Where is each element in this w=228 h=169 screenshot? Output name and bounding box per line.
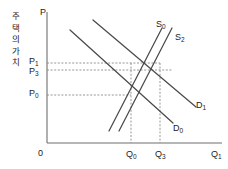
- x-tick-label-q3: Q3: [155, 150, 166, 159]
- chart-plot-area: [0, 0, 228, 169]
- x-tick-label-q1: Q1: [211, 150, 222, 159]
- curve-label-s2: S2: [175, 33, 185, 42]
- x-tick-label-q0: Q0: [126, 150, 137, 159]
- y-tick-label-p3: P3: [29, 67, 39, 76]
- axes: [47, 12, 222, 143]
- origin-label: 0: [38, 149, 43, 158]
- curve-label-d1: D1: [196, 101, 206, 110]
- supply-curve-s0: [109, 28, 162, 131]
- y-tick-label-p0: P0: [29, 89, 39, 98]
- y-tick-label-p1: P1: [29, 57, 39, 66]
- y-axis-label-p: P: [40, 8, 46, 17]
- curve-label-d0: D0: [173, 124, 183, 133]
- curve-label-s0: S0: [156, 20, 166, 29]
- supply-demand-chart: 주 택 의 가 치 P P1 P3 P0 0: [0, 0, 228, 169]
